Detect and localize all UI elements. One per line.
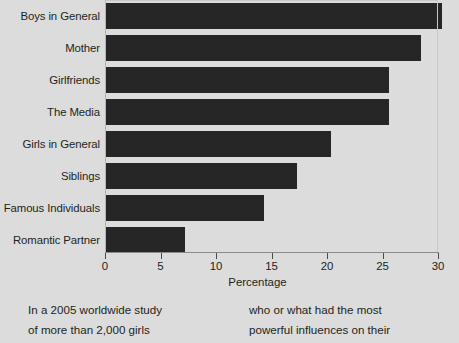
caption-line: powerful influences on their (249, 320, 390, 340)
x-axis-tick-label: 20 (321, 260, 334, 272)
bar-row: Famous Individuals (0, 192, 459, 224)
bar-category-label: Romantic Partner (0, 234, 100, 246)
x-axis-tick-label: 0 (102, 260, 108, 272)
x-axis-tick-label: 30 (432, 260, 445, 272)
bar-category-label: Siblings (0, 170, 100, 182)
bar-row: Girls in General (0, 128, 459, 160)
x-axis-title: Percentage (0, 276, 459, 288)
x-axis-tick (161, 253, 162, 259)
x-axis-tick-label: 10 (210, 260, 223, 272)
bar-category-label: Boys in General (0, 10, 100, 22)
x-axis-tick-label: 15 (265, 260, 278, 272)
bar-track (105, 3, 438, 29)
bar-track (105, 163, 438, 189)
caption-line: who or what had the most (249, 300, 390, 320)
bar-row: Mother (0, 32, 459, 64)
bar (105, 163, 297, 189)
bar-row: Girlfriends (0, 64, 459, 96)
bar-category-label: Famous Individuals (0, 202, 100, 214)
bar (105, 35, 421, 61)
bar (105, 99, 389, 125)
bar-track (105, 195, 438, 221)
x-axis-tick-label: 25 (376, 260, 389, 272)
x-axis-tick (272, 253, 273, 259)
bar-rows: Boys in GeneralMotherGirlfriendsThe Medi… (0, 0, 459, 256)
bar-row: Boys in General (0, 0, 459, 32)
bar-chart-figure: Boys in GeneralMotherGirlfriendsThe Medi… (0, 0, 459, 343)
bar-category-label: Girlfriends (0, 74, 100, 86)
x-axis-tick (216, 253, 217, 259)
bar-track (105, 99, 438, 125)
bar (105, 131, 331, 157)
x-axis-title-label: Percentage (228, 276, 286, 288)
bar (105, 67, 389, 93)
bar-track (105, 131, 438, 157)
bar-category-label: Mother (0, 42, 100, 54)
chart-plot-area: Boys in GeneralMotherGirlfriendsThe Medi… (0, 0, 459, 292)
bar-row: Siblings (0, 160, 459, 192)
bar-category-label: Girls in General (0, 138, 100, 150)
figure-caption: In a 2005 worldwide study of more than 2… (0, 300, 459, 343)
x-axis-tick (105, 253, 106, 259)
bar-track (105, 35, 438, 61)
bar-row: The Media (0, 96, 459, 128)
bar (105, 3, 442, 29)
caption-column-right: who or what had the most powerful influe… (249, 300, 390, 340)
x-axis-tick-label: 5 (157, 260, 163, 272)
bar-category-label: The Media (0, 106, 100, 118)
caption-line: of more than 2,000 girls (28, 320, 162, 340)
bar-track (105, 67, 438, 93)
x-axis-tick (383, 253, 384, 259)
bar-track (105, 227, 438, 253)
caption-line: In a 2005 worldwide study (28, 300, 162, 320)
caption-column-left: In a 2005 worldwide study of more than 2… (28, 300, 162, 340)
x-axis-tick (438, 253, 439, 259)
x-axis-tick (327, 253, 328, 259)
bar (105, 195, 264, 221)
bar (105, 227, 185, 253)
